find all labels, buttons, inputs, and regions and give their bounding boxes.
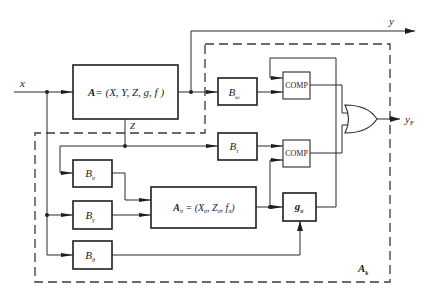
- input-x-line: [14, 90, 73, 94]
- b-theta-block: Bθ: [73, 241, 112, 269]
- g-sigma-block: gσ: [283, 193, 316, 221]
- automaton-a-sigma-block: Aσ = (Xσ, Zσ, fσ): [151, 187, 256, 228]
- automaton-a-block: A= (X, Y, Z, g, f ): [73, 65, 178, 119]
- or-gate: [345, 105, 377, 133]
- b-gamma-block: Bγ: [73, 201, 112, 229]
- comp1-block: COMP: [283, 72, 310, 99]
- z-label: Z: [130, 121, 136, 131]
- a-block-rhs: = (X, Y, Z, g, f ): [95, 86, 164, 99]
- svg-text:COMP: COMP: [285, 81, 308, 90]
- ak-label: Ak: [357, 262, 368, 276]
- block-diagram: x A= (X, Y, Z, g, f ) y Z Bω COMP: [0, 0, 433, 296]
- b-tau-block: Bτ: [218, 133, 257, 160]
- comp2-block: COMP: [283, 140, 310, 167]
- output-y-label: y: [388, 15, 394, 27]
- svg-text:A= (X, Y, Z, g, f ): A= (X, Y, Z, g, f ): [87, 86, 164, 99]
- output-yf-label: yF: [404, 113, 414, 127]
- input-x-label: x: [19, 77, 25, 89]
- svg-text:COMP: COMP: [285, 149, 308, 158]
- b-sigma-block: Bσ: [73, 160, 112, 187]
- a-block-lhs: A: [87, 86, 95, 98]
- b-omega-block: Bω: [218, 78, 257, 105]
